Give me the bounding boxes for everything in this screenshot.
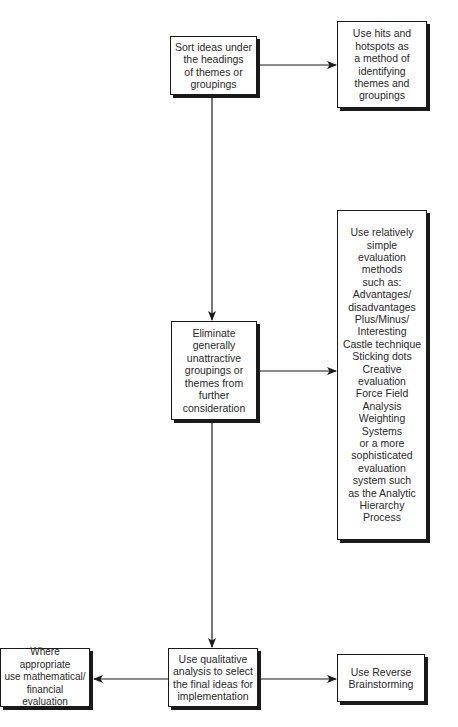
node-mathematical-evaluation-text: Where appropriate use mathematical/ fina… [4, 646, 86, 708]
node-evaluation-methods: Use relatively simple evaluation methods… [337, 210, 427, 540]
node-hits-hotspots-text: Use hits and hotspots as a method of ide… [353, 27, 411, 101]
node-eliminate: Eliminate generally unattractive groupin… [171, 321, 257, 420]
node-sort-ideas: Sort ideas under the headings of themes … [170, 36, 257, 95]
node-evaluation-methods-text: Use relatively simple evaluation methods… [343, 226, 421, 524]
node-qualitative-analysis: Use qualitative analysis to select the f… [168, 648, 258, 707]
node-qualitative-analysis-text: Use qualitative analysis to select the f… [173, 653, 253, 703]
node-eliminate-text: Eliminate generally unattractive groupin… [183, 327, 245, 414]
node-reverse-brainstorming: Use Reverse Brainstorming [337, 654, 425, 702]
node-mathematical-evaluation: Where appropriate use mathematical/ fina… [0, 648, 90, 707]
node-sort-ideas-text: Sort ideas under the headings of themes … [175, 41, 252, 91]
node-hits-hotspots: Use hits and hotspots as a method of ide… [337, 21, 427, 108]
node-reverse-brainstorming-text: Use Reverse Brainstorming [349, 666, 414, 691]
